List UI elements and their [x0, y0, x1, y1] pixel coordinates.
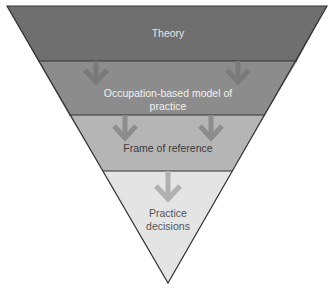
- label-occupation-model: Occupation-based model of practice: [100, 87, 236, 113]
- label-theory: Theory: [80, 27, 256, 40]
- label-practice-decisions: Practice decisions: [133, 207, 203, 233]
- label-frame-of-reference: Frame of reference: [100, 142, 236, 155]
